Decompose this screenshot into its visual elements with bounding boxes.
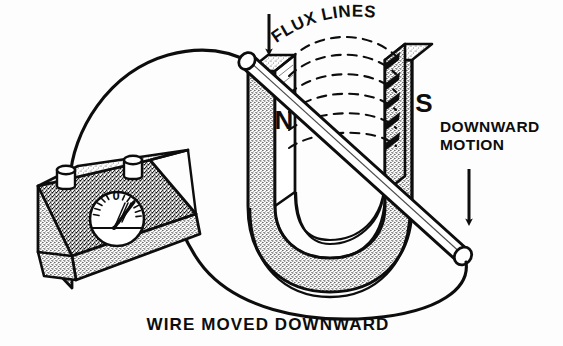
figure-canvas: 0 FLUX LINES N S DOWNWARD MOTION [0,0,563,346]
flux-arc-1 [289,37,396,60]
figure-caption: WIRE MOVED DOWNWARD [147,315,390,334]
meter-terminal-right [124,156,142,179]
meter-plinth-left [38,252,76,280]
flux-lines [289,37,396,148]
magnet-inner-highlight [296,186,384,244]
meter-needle-pivot [112,226,116,230]
meter-terminal-left [57,166,75,189]
flux-arc-3 [289,74,396,94]
meter-zero-label: 0 [112,188,119,203]
wire-upper-lead [70,50,251,180]
downward-motion-line-2: MOTION [440,136,504,153]
galvanometer: 0 [38,150,200,288]
south-pole-label: S [415,88,432,118]
flux-arc-2 [289,55,396,76]
north-pole-label: N [275,105,294,135]
induction-diagram: 0 FLUX LINES N S DOWNWARD MOTION [0,0,563,346]
downward-motion-line-1: DOWNWARD [440,118,540,135]
